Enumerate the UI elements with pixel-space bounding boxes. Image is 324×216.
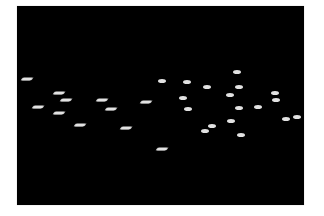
particle [233,70,241,74]
particle [184,107,192,111]
particle [235,106,243,110]
particle [201,129,209,133]
particle [179,96,187,100]
particle [226,93,234,97]
particle [208,124,216,128]
particle [282,117,290,121]
particle [235,85,243,89]
particle [293,115,301,119]
particle [158,79,166,83]
particle [183,80,191,84]
particle [272,98,280,102]
particle [227,119,235,123]
particle [271,91,279,95]
particle [237,133,245,137]
particle [203,85,211,89]
particle [254,105,262,109]
